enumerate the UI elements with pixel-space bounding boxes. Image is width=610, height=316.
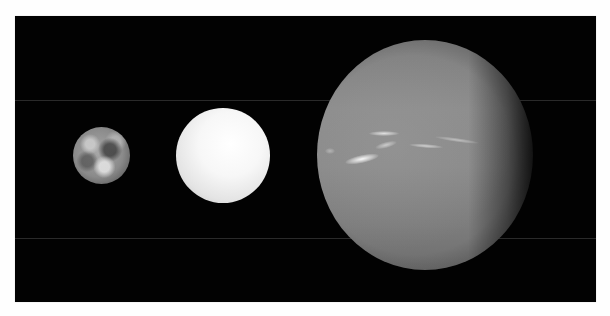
cloud-streak	[325, 148, 335, 154]
cloud-streak	[369, 131, 399, 136]
image-stage	[0, 0, 610, 316]
cloud-streak	[375, 139, 398, 150]
cloud-streak	[345, 152, 380, 167]
space-background	[15, 16, 596, 302]
neptune-planet	[317, 40, 533, 270]
cloud-streak	[435, 135, 479, 145]
scanline-artifact	[15, 238, 596, 239]
cloud-streak	[409, 143, 443, 149]
earth-planet	[73, 127, 130, 184]
white-planet	[176, 108, 270, 203]
